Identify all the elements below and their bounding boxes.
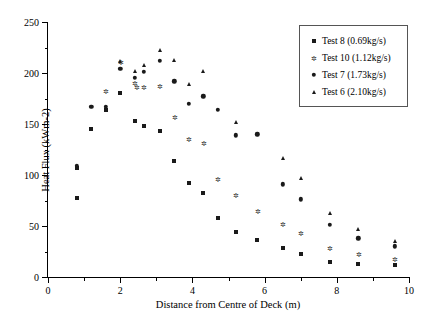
legend-item: Test 10 (1.12kg/s) — [300, 49, 407, 66]
x-axis-tick-minor — [156, 277, 157, 281]
legend-marker-square-icon — [309, 36, 318, 45]
data-point — [187, 101, 191, 105]
legend-marker-glyph — [312, 90, 316, 94]
data-point — [89, 104, 93, 108]
x-axis-tick-label: 6 — [262, 285, 267, 296]
data-point — [299, 252, 303, 256]
legend-label: Test 6 (2.10kg/s) — [322, 87, 386, 97]
x-axis-tick-label: 4 — [190, 285, 195, 296]
y-axis-tick-label: 200 — [24, 68, 39, 79]
data-point — [327, 223, 331, 227]
data-point — [215, 177, 220, 182]
data-point — [392, 256, 397, 261]
data-point — [356, 227, 360, 231]
data-point — [234, 133, 238, 137]
legend-marker-triangle-icon — [309, 87, 318, 96]
x-axis-tick-major — [337, 277, 338, 283]
data-point — [215, 108, 219, 112]
legend-item: Test 7 (1.73kg/s) — [300, 66, 407, 83]
data-point — [133, 119, 137, 123]
x-axis-title: Distance from Centre of Deck (m) — [47, 299, 409, 310]
data-point — [233, 193, 238, 198]
data-point — [356, 236, 360, 240]
x-axis-tick-label: 8 — [334, 285, 339, 296]
data-point — [103, 89, 108, 94]
data-point — [158, 59, 162, 63]
legend-item: Test 8 (0.69kg/s) — [300, 32, 407, 49]
data-point — [75, 196, 79, 200]
data-point — [298, 231, 303, 236]
data-point — [158, 129, 162, 133]
legend-marker-glyph — [311, 72, 315, 76]
data-point — [187, 82, 191, 86]
y-axis-tick-minor — [45, 48, 49, 49]
data-point — [201, 94, 205, 98]
data-point — [89, 127, 93, 131]
data-point — [118, 59, 122, 63]
x-axis-tick-major — [120, 277, 121, 283]
data-point — [216, 216, 220, 220]
y-axis-tick-label: 0 — [34, 272, 39, 283]
data-point — [280, 221, 285, 226]
x-axis-tick-major — [409, 277, 410, 283]
y-axis-tick-major — [42, 124, 48, 125]
data-point — [201, 69, 205, 73]
data-point — [172, 58, 176, 62]
data-point — [157, 84, 162, 89]
chart-legend: Test 8 (0.69kg/s)Test 10 (1.12kg/s)Test … — [299, 25, 408, 107]
y-axis-tick-major — [42, 22, 48, 23]
data-point — [118, 91, 122, 95]
data-point — [393, 263, 397, 267]
y-axis-tick-label: 50 — [29, 221, 39, 232]
data-point — [328, 260, 332, 264]
x-axis-tick-label: 0 — [46, 285, 51, 296]
legend-label: Test 8 (0.69kg/s) — [322, 36, 386, 46]
x-axis-tick-major — [192, 277, 193, 283]
data-point — [234, 230, 238, 234]
y-axis-tick-label: 250 — [24, 17, 39, 28]
data-point — [172, 79, 176, 83]
data-point — [281, 156, 285, 160]
y-axis-tick-major — [42, 73, 48, 74]
data-point — [356, 262, 360, 266]
data-point — [255, 208, 260, 213]
x-axis-tick-label: 10 — [404, 285, 414, 296]
legend-label: Test 10 (1.12kg/s) — [322, 53, 391, 63]
y-axis-tick-minor — [45, 150, 49, 151]
x-axis-tick-minor — [229, 277, 230, 281]
data-point — [141, 70, 145, 74]
data-point — [255, 132, 259, 136]
y-axis-tick-label: 100 — [24, 170, 39, 181]
data-point — [356, 251, 361, 256]
data-point — [327, 246, 332, 251]
data-point — [134, 85, 139, 90]
data-point — [142, 63, 146, 67]
data-point — [201, 141, 206, 146]
data-point — [392, 244, 396, 248]
data-point — [234, 120, 238, 124]
y-axis-tick-minor — [45, 201, 49, 202]
legend-item: Test 6 (2.10kg/s) — [300, 83, 407, 100]
y-axis-tick-minor — [45, 252, 49, 253]
x-axis-tick-major — [265, 277, 266, 283]
x-axis-tick-minor — [373, 277, 374, 281]
legend-marker-star-icon — [309, 53, 318, 62]
data-point — [186, 137, 191, 142]
y-axis-tick-minor — [45, 99, 49, 100]
data-point — [172, 159, 176, 163]
data-point — [187, 181, 191, 185]
data-point — [298, 197, 302, 201]
data-point — [118, 67, 122, 71]
data-point — [201, 191, 205, 195]
x-axis-tick-major — [48, 277, 49, 283]
data-point — [255, 238, 259, 242]
data-point — [393, 239, 397, 243]
y-axis-tick-label: 150 — [24, 119, 39, 130]
x-axis-tick-minor — [301, 277, 302, 281]
legend-marker-glyph — [312, 39, 316, 43]
data-point — [328, 211, 332, 215]
data-point — [299, 176, 303, 180]
legend-marker-circle-icon — [309, 70, 318, 79]
data-point — [280, 182, 284, 186]
data-point — [133, 69, 137, 73]
